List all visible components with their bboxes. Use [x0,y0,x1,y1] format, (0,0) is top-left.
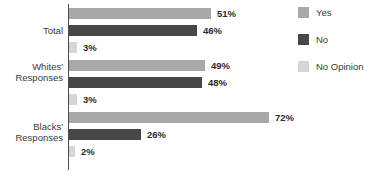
bar-total-yes [69,8,211,19]
bar-value-total-noopinion: 3% [83,42,97,53]
legend-label-yes: Yes [316,7,332,18]
category-label-blacks: Blacks' Responses [3,121,63,143]
bar-blacks-no [69,129,141,140]
bar-whites-yes [69,60,205,71]
legend-swatch-yes-icon [298,7,309,18]
bar-value-total-yes: 51% [217,8,236,19]
bar-value-blacks-noopinion: 2% [81,146,95,157]
bar-blacks-yes [69,112,269,123]
bar-whites-noopinion [69,94,77,105]
legend-label-no-opinion: No Opinion [316,61,364,72]
bar-value-blacks-no: 26% [147,129,166,140]
bar-value-whites-yes: 49% [211,60,230,71]
category-label-total: Total [3,25,63,36]
legend-swatch-no-icon [298,34,309,45]
legend-label-no: No [316,34,328,45]
bar-value-whites-noopinion: 3% [83,94,97,105]
bar-whites-no [69,77,202,88]
bar-blacks-noopinion [69,146,75,157]
bar-total-no [69,25,197,36]
bar-total-noopinion [69,42,77,53]
bar-value-whites-no: 48% [208,77,227,88]
legend-swatch-no-opinion-icon [298,61,309,72]
bar-value-total-no: 46% [203,25,222,36]
bar-chart: Total Whites' Responses Blacks' Response… [0,0,387,176]
category-label-whites: Whites' Responses [3,61,63,83]
bar-value-blacks-yes: 72% [275,112,294,123]
